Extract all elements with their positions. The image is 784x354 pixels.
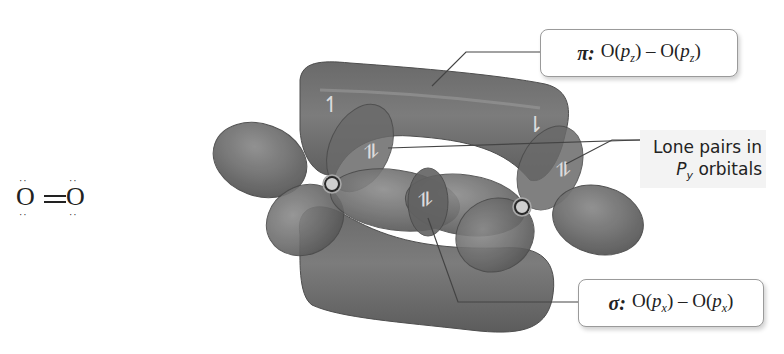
pi-electron-down-arrow: ⇂ bbox=[526, 112, 544, 137]
pi-symbol: π: bbox=[577, 42, 595, 65]
pi-bond-label: π: O(pz) – O(pz) bbox=[540, 29, 738, 77]
lone-pair-arrows-left: ⥮ bbox=[364, 139, 379, 163]
lone-pair-arrows-right: ⥮ bbox=[556, 157, 571, 181]
lone-pairs-label: Lone pairs in Py orbitals bbox=[640, 130, 766, 188]
sigma-bond-label: σ: O(px) – O(px) bbox=[578, 279, 764, 327]
lone-pairs-label-line1: Lone pairs in bbox=[640, 136, 762, 158]
sigma-pair-arrows: ⥮ bbox=[418, 187, 433, 211]
sigma-bond-expression: O(px) – O(px) bbox=[632, 290, 733, 316]
pi-electron-up-arrow: ↿ bbox=[322, 92, 340, 117]
left-oxygen-nucleus bbox=[325, 177, 339, 191]
sigma-symbol: σ: bbox=[609, 292, 626, 315]
right-oxygen-nucleus bbox=[515, 200, 529, 214]
lone-pairs-label-line2: Py orbitals bbox=[640, 158, 762, 187]
pi-bond-expression: O(pz) – O(pz) bbox=[601, 40, 701, 66]
